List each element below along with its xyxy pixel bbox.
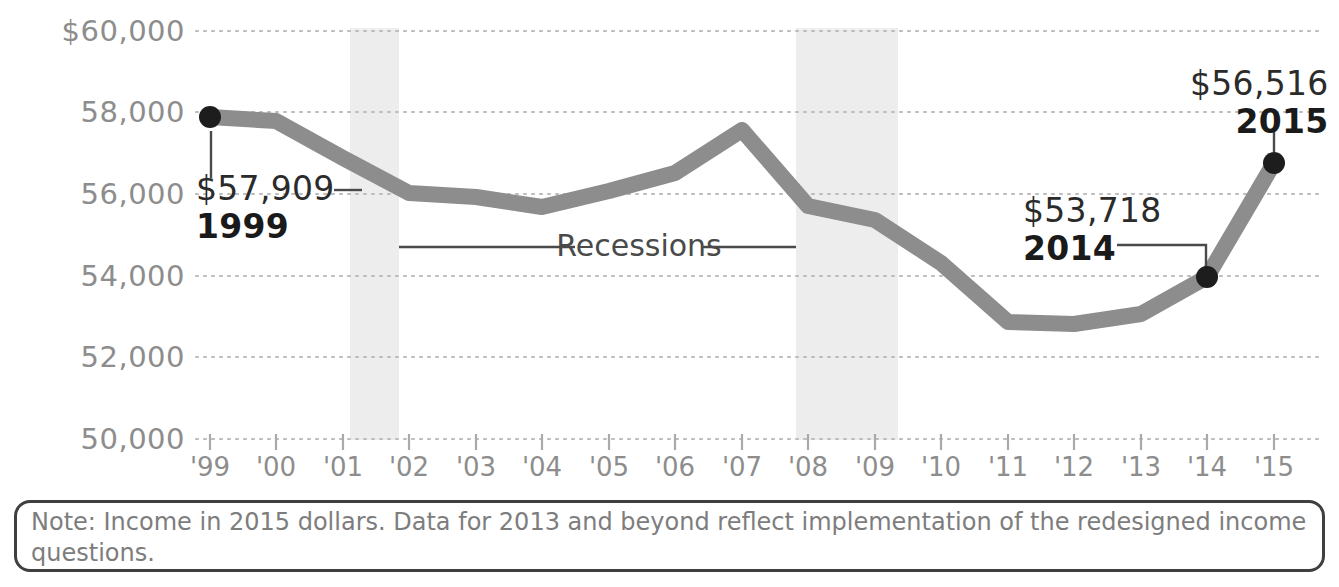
annotation-2015-value: $56,516 [1190,65,1329,103]
x-axis-label-04: '04 [522,452,562,482]
chart-footnote: Note: Income in 2015 dollars. Data for 2… [14,500,1325,572]
x-axis-label-01: '01 [323,452,363,482]
annotation-1999-value: $57,909 [196,170,335,208]
chart-figure: $60,000 58,000 56,000 54,000 52,000 50,0… [0,0,1339,587]
y-axis-label-58000: 58,000 [0,95,185,129]
data-point-1999 [199,106,221,128]
y-axis-label-60000: $60,000 [0,14,185,48]
annotation-2014-year: 2014 [1023,230,1162,268]
annotation-1999-year: 1999 [196,208,335,246]
x-axis-label-05: '05 [589,452,629,482]
x-axis-label-02: '02 [389,452,429,482]
y-axis-label-50000: 50,000 [0,422,185,456]
data-point-2015 [1263,152,1285,174]
x-axis-label-12: '12 [1054,452,1094,482]
x-axis-label-13: '13 [1121,452,1161,482]
annotation-2015: $56,516 2015 [1190,65,1329,142]
x-axis-label-06: '06 [655,452,695,482]
x-axis-label-07: '07 [722,452,762,482]
x-axis-label-99: '99 [190,452,230,482]
x-axis-label-14: '14 [1187,452,1227,482]
annotation-2014-value: $53,718 [1023,192,1162,230]
x-axis-label-00: '00 [256,452,296,482]
x-axis-label-09: '09 [855,452,895,482]
recessions-label: Recessions [556,228,722,263]
y-axis-label-52000: 52,000 [0,340,185,374]
x-axis-label-03: '03 [456,452,496,482]
annotation-2014: $53,718 2014 [1023,192,1162,269]
x-axis-label-15: '15 [1254,452,1294,482]
x-axis-label-08: '08 [788,452,828,482]
x-axis-label-11: '11 [988,452,1028,482]
annotation-1999: $57,909 1999 [196,170,335,247]
data-point-2014 [1196,266,1218,288]
recession-band-2001 [350,28,399,440]
y-axis-label-54000: 54,000 [0,259,185,293]
x-axis-label-10: '10 [921,452,961,482]
annotation-2015-year: 2015 [1190,103,1329,141]
y-axis-label-56000: 56,000 [0,177,185,211]
